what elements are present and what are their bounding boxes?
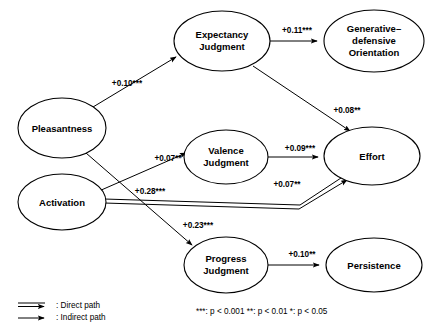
node-label-orientation-line1: Generative–: [347, 23, 401, 34]
node-label-pleasantness: Pleasantness: [32, 123, 93, 134]
node-generative-defensive-orientation: Generative– defensive Orientation: [324, 10, 424, 72]
path-diagram: +0.10*** +0.11*** +0.08** +0.07** +0.09*…: [0, 0, 436, 332]
node-effort: Effort: [324, 127, 420, 185]
node-expectancy-judgment: Expectancy Judgment: [174, 11, 270, 71]
coefficient-expectancy-to-orientation: +0.11***: [282, 26, 313, 35]
node-progress-judgment: Progress Judgment: [184, 237, 268, 293]
coefficient-activation-to-effort-secondary: +0.07**: [273, 180, 301, 189]
node-label-valence-judgment-line1: Valence: [208, 145, 243, 156]
edge-pleasantness-to-expectancy: +0.10***: [93, 57, 176, 107]
coefficient-pleasantness-to-expectancy: +0.10***: [112, 79, 143, 88]
coefficient-activation-to-valence: +0.07**: [154, 154, 182, 163]
coefficient-activation-to-effort-direct: +0.28***: [135, 187, 166, 196]
node-label-effort: Effort: [359, 151, 385, 162]
node-label-expectancy-judgment-line1: Expectancy: [196, 29, 250, 40]
coefficient-valence-to-effort: +0.09***: [285, 144, 316, 153]
legend: : Direct path : Indirect path ***: p < 0…: [18, 301, 328, 323]
node-label-progress-judgment-line2: Judgment: [203, 265, 249, 276]
edge-activation-to-valence: +0.07**: [99, 153, 186, 191]
node-label-valence-judgment-line2: Judgment: [203, 157, 249, 168]
legend-indirect-path: : Indirect path: [18, 313, 106, 322]
edge-activation-to-effort-secondary: +0.07**: [273, 180, 301, 189]
edge-valence-to-effort: +0.09***: [268, 144, 318, 157]
legend-direct-path: : Direct path: [18, 301, 101, 310]
node-group: Pleasantness Activation Expectancy Judgm…: [18, 10, 424, 293]
legend-direct-path-label: : Direct path: [56, 301, 101, 310]
coefficient-pleasantness-to-progress: +0.23***: [183, 221, 214, 230]
node-label-persistence: Persistence: [347, 260, 400, 271]
edge-expectancy-to-effort: +0.08**: [253, 66, 361, 131]
node-label-orientation-line2: defensive: [352, 35, 396, 46]
node-label-progress-judgment-line1: Progress: [205, 253, 246, 264]
edge-progress-to-persistence: +0.10**: [268, 250, 319, 265]
coefficient-progress-to-persistence: +0.10**: [288, 250, 316, 259]
legend-significance-note: ***: p < 0.001 **: p < 0.01 *: p < 0.05: [196, 307, 328, 316]
edge-line-expectancy-to-effort: [253, 66, 350, 131]
node-valence-judgment: Valence Judgment: [184, 130, 268, 184]
node-activation: Activation: [18, 174, 106, 230]
node-label-expectancy-judgment-line2: Judgment: [199, 41, 245, 52]
legend-indirect-path-label: : Indirect path: [56, 313, 106, 322]
node-pleasantness: Pleasantness: [18, 98, 106, 158]
node-label-activation: Activation: [39, 197, 85, 208]
edge-expectancy-to-orientation: +0.11***: [270, 26, 317, 41]
coefficient-expectancy-to-effort: +0.08**: [333, 106, 361, 115]
node-label-orientation-line3: Orientation: [349, 47, 400, 58]
node-persistence: Persistence: [326, 238, 422, 292]
path-diagram-container: +0.10*** +0.11*** +0.08** +0.07** +0.09*…: [0, 0, 436, 332]
